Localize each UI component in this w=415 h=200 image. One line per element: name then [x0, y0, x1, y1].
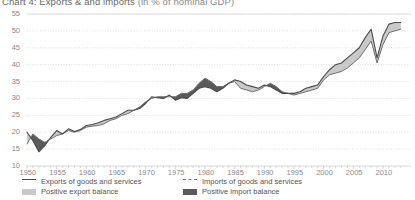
- legend-label-exports-line: Exports of goods and services: [41, 178, 141, 186]
- y-axis-tick-label: 45: [2, 44, 20, 52]
- legend-label-imports-line: Imports of goods and services: [202, 178, 302, 186]
- x-axis-tick-label: 1960: [79, 169, 96, 177]
- x-axis-tick-label: 2000: [316, 169, 333, 177]
- x-axis-tick-label: 1975: [168, 169, 185, 177]
- y-axis-tick-label: 30: [2, 94, 20, 102]
- y-axis-tick-label: 35: [2, 78, 20, 86]
- y-axis-tick-label: 15: [2, 145, 20, 153]
- legend-swatch-export-balance: [22, 189, 36, 195]
- y-axis-tick-label: 55: [2, 10, 20, 18]
- x-axis-tick-label: 1950: [20, 169, 37, 177]
- x-axis-tick-label: 1980: [198, 169, 215, 177]
- y-axis-tick-label: 40: [2, 61, 20, 69]
- x-axis-tick-label: 1995: [287, 169, 304, 177]
- x-axis-tick-label: 1965: [109, 169, 126, 177]
- legend-swatch-import-balance: [183, 189, 197, 195]
- x-axis-tick-label: 1985: [227, 169, 244, 177]
- y-axis-tick-label: 10: [2, 162, 20, 170]
- x-axis-tick-label: 1990: [257, 169, 274, 177]
- y-axis-tick-label: 50: [2, 27, 20, 35]
- x-axis-tick-label: 2005: [346, 169, 363, 177]
- import-balance-area: [266, 83, 288, 93]
- legend-swatch-imports-line: [183, 179, 197, 180]
- x-axis-tick-label: 1955: [49, 169, 66, 177]
- legend-swatch-exports-line: [22, 179, 36, 180]
- x-axis-tick-label: 1970: [138, 169, 155, 177]
- legend-label-export-balance: Positive export balance: [41, 188, 119, 196]
- chart-legend: Exports of goods and services Imports of…: [0, 178, 415, 200]
- x-axis-tick-label: 2010: [376, 169, 393, 177]
- chart-container: Chart 4: Exports & and imports (in % of …: [0, 0, 415, 200]
- legend-label-import-balance: Positive import balance: [202, 188, 280, 196]
- y-axis-tick-label: 25: [2, 111, 20, 119]
- y-axis-tick-label: 20: [2, 128, 20, 136]
